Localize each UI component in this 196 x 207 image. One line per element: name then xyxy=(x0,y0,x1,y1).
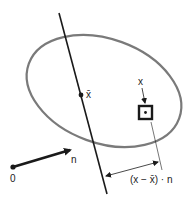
normal-vector xyxy=(13,150,70,167)
diagram-svg: x̄ x (x − x̄) · n n 0 xyxy=(0,0,196,207)
normal-label: n xyxy=(71,154,77,165)
centroid-label: x̄ xyxy=(86,89,91,100)
distance-label: (x − x̄) · n xyxy=(130,174,173,185)
diagram-canvas: x̄ x (x − x̄) · n n 0 xyxy=(0,0,196,207)
data-ellipse xyxy=(11,15,196,167)
point-x-dot xyxy=(144,111,147,114)
point-x-pointer xyxy=(142,88,145,103)
centroid-point xyxy=(79,93,84,98)
plane-line xyxy=(59,13,107,194)
point-x-label: x xyxy=(138,76,143,87)
origin-label: 0 xyxy=(10,173,16,184)
